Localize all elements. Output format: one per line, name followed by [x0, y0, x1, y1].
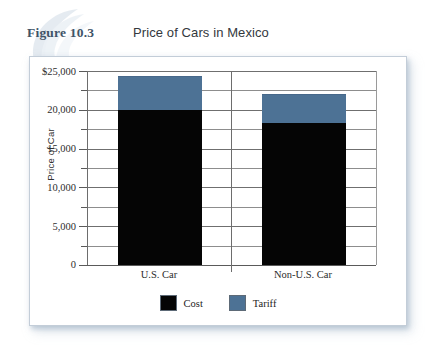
legend-label-cost: Cost	[184, 298, 203, 309]
figure-title: Price of Cars in Mexico	[133, 25, 269, 40]
y-tick-20000	[79, 110, 87, 111]
legend-item-tariff[interactable]: Tariff	[229, 295, 277, 311]
plot-area	[87, 71, 377, 265]
legend-label-tariff: Tariff	[253, 298, 277, 309]
bar-segment-cost-non-us-car[interactable]	[262, 123, 346, 265]
legend-swatch-tariff-icon	[229, 295, 246, 311]
bar-segment-cost-us-car[interactable]	[118, 110, 202, 265]
y-axis-label-5000: 5,000	[52, 221, 76, 232]
bar-non-us-car[interactable]	[262, 94, 346, 266]
y-tick-15000	[79, 149, 87, 150]
bar-us-car[interactable]	[118, 76, 202, 265]
chart-legend: Cost Tariff	[30, 295, 406, 311]
chart-card: Price of Car $25,000 20,000 15,000 10,00…	[29, 56, 407, 326]
x-axis-label-us-car: U.S. Car	[87, 269, 231, 280]
bar-segment-tariff-non-us-car[interactable]	[262, 94, 346, 125]
y-axis-label-20000: 20,000	[47, 104, 76, 115]
y-axis-label-0: 0	[71, 259, 76, 270]
y-tick-5000	[79, 226, 87, 227]
legend-swatch-cost-icon	[160, 295, 177, 311]
figure-number: Figure 10.3	[27, 25, 94, 41]
y-axis-title: Price of Car	[45, 100, 56, 210]
y-axis-label-25000: $25,000	[42, 66, 76, 77]
x-axis-label-non-us-car: Non-U.S. Car	[231, 269, 375, 280]
bar-segment-tariff-us-car[interactable]	[118, 76, 202, 111]
y-tick-25000	[79, 71, 87, 72]
y-tick-10000	[79, 187, 87, 188]
gridline-25000	[88, 71, 376, 72]
y-axis-label-15000: 15,000	[47, 143, 76, 154]
plot-wrapper: Price of Car $25,000 20,000 15,000 10,00…	[30, 57, 406, 325]
category-divider-line	[231, 71, 232, 272]
legend-item-cost[interactable]: Cost	[160, 295, 203, 311]
y-axis-label-10000: 10,000	[47, 182, 76, 193]
figure-header: Figure 10.3 Price of Cars in Mexico	[0, 0, 435, 52]
y-tick-0	[79, 265, 87, 266]
